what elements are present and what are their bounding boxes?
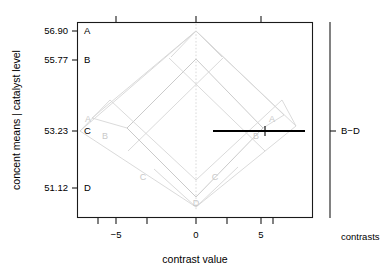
- y-tick-label-3: 51.12: [44, 182, 68, 193]
- y-axis-title: concent means | catalyst level: [10, 50, 22, 190]
- y-group-label-d: D: [84, 182, 91, 193]
- y-group-label-a: A: [84, 25, 91, 36]
- mmc-plot-figure: A B C D C A B 56.90 55.77 53.23 51.12 A …: [0, 0, 384, 280]
- right-axis-title: contrasts: [341, 231, 380, 242]
- diamond-label-bottom-d: D: [193, 198, 200, 208]
- diamond-label-left-b: B: [102, 131, 108, 141]
- x-tick-label-neg5: −5: [111, 229, 122, 240]
- x-axis-top-ticks: [116, 16, 261, 22]
- right-axis: [330, 22, 336, 218]
- mmc-diamond-grid: [80, 31, 296, 207]
- y-tick-label-0: 56.90: [44, 25, 68, 36]
- y-group-label-c: C: [84, 125, 91, 136]
- x-tick-label-0: 0: [193, 229, 198, 240]
- diamond-label-left-a: A: [85, 114, 91, 124]
- y-tick-label-1: 55.77: [44, 54, 68, 65]
- diamond-label-bottom-left-c: C: [140, 172, 147, 182]
- y-group-label-b: B: [84, 54, 90, 65]
- diamond-label-right-b: B: [253, 131, 259, 141]
- x-tick-label-5: 5: [258, 229, 263, 240]
- diamond-label-bottom-right-c: C: [212, 172, 219, 182]
- x-axis-title: contrast value: [162, 253, 228, 265]
- x-axis-bottom-ticks: [98, 218, 273, 224]
- right-axis-label-b-d: B−D: [341, 125, 360, 136]
- plot-box: [78, 23, 313, 218]
- plot-canvas: A B C D C A B 56.90 55.77 53.23 51.12 A …: [0, 0, 384, 280]
- diamond-label-right-a: A: [269, 114, 275, 124]
- y-tick-label-2: 53.23: [44, 125, 68, 136]
